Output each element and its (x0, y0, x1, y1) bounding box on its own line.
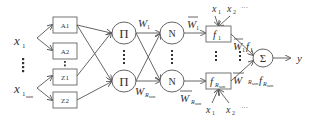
input-edges (37, 25, 52, 100)
svg-text:Z1: Z1 (61, 74, 69, 82)
rule-node-1: Π (112, 22, 136, 44)
svg-text:x: x (226, 3, 232, 14)
svg-text:x: x (205, 104, 211, 115)
svg-text:1: 1 (212, 110, 215, 116)
svg-text:Π: Π (119, 26, 128, 41)
norm-vdots (171, 50, 173, 64)
svg-text:num: num (149, 95, 156, 99)
consequent-top-inputs: x 1 x 2 ··· (211, 3, 248, 26)
input-x1: x 1 (13, 33, 26, 50)
norm-node-n: N (160, 70, 184, 92)
input-vdots (22, 58, 24, 72)
rule-norm-edges (136, 33, 160, 81)
output-y-label: y (296, 52, 302, 64)
svg-text:num: num (26, 94, 34, 99)
consequent-fn: f R num (206, 73, 231, 89)
svg-text:1: 1 (147, 24, 150, 30)
svg-text:W: W (180, 92, 190, 104)
svg-text:···: ··· (241, 4, 248, 12)
rule-vdots (123, 50, 125, 64)
svg-text:1: 1 (242, 47, 245, 53)
membership-z1: Z1 (53, 69, 77, 85)
output: y (273, 52, 302, 64)
svg-text:Σ: Σ (260, 52, 266, 64)
label-wbarn: W R num (180, 91, 202, 106)
norm-consequent-edges (184, 33, 205, 81)
membership-a1: A1 (53, 17, 77, 33)
membership-a2: A2 (53, 43, 77, 59)
svg-text:W: W (233, 74, 243, 86)
svg-text:1: 1 (22, 42, 26, 50)
svg-text:A2: A2 (61, 48, 70, 56)
anfis-diagram: x 1 x 1 num A1 A2 Z1 Z2 (0, 0, 319, 119)
svg-text:1: 1 (196, 25, 199, 31)
svg-text:N: N (168, 76, 175, 87)
label-wbar1: W 1 (187, 17, 199, 31)
svg-text:num: num (267, 84, 274, 88)
input-x1num: x 1 num (13, 81, 34, 99)
svg-text:x: x (211, 3, 217, 14)
label-w1: W 1 (138, 17, 150, 30)
svg-text:2: 2 (233, 9, 236, 15)
membership-z2: Z2 (53, 92, 77, 108)
input-x1-label: x (13, 33, 20, 48)
svg-text:Z2: Z2 (61, 97, 69, 105)
consequent-bottom-inputs: x 1 x 2 ··· (205, 90, 248, 116)
rule-node-n: Π (112, 70, 136, 92)
svg-text:1: 1 (218, 9, 221, 15)
svg-text:num: num (252, 82, 259, 86)
svg-text:N: N (168, 28, 175, 39)
consequent-f1: f 1 (206, 26, 231, 42)
consequent-vdots (215, 51, 241, 61)
svg-text:2: 2 (232, 110, 235, 116)
norm-node-1: N (160, 22, 184, 44)
label-prodn: W R num f R num (233, 73, 274, 88)
membership-rule-edges (77, 25, 111, 100)
label-wn: W R num (135, 85, 156, 99)
svg-text:num: num (219, 85, 226, 89)
svg-text:···: ··· (241, 104, 248, 112)
svg-text:1: 1 (218, 35, 221, 41)
svg-text:x: x (225, 104, 231, 115)
sum-node: Σ (253, 49, 273, 67)
membership-vdots (64, 61, 66, 66)
svg-text:A1: A1 (61, 22, 70, 30)
svg-text:Π: Π (119, 74, 128, 89)
svg-text:x: x (13, 81, 20, 96)
svg-text:W: W (135, 85, 145, 97)
svg-text:num: num (195, 102, 202, 106)
